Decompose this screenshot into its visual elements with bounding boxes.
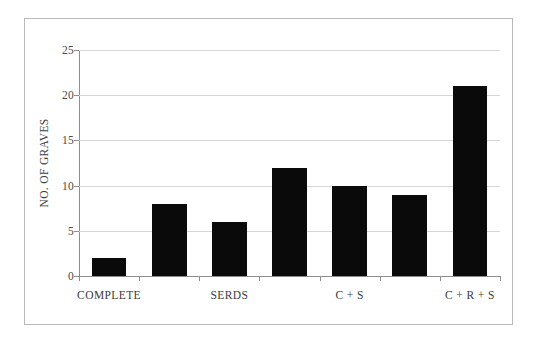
y-tick-mark-25 [74, 50, 79, 51]
y-tick-label-25: 25 [62, 44, 74, 56]
y-axis-title-text: NO. OF GRAVES [38, 118, 50, 207]
x-axis-label-3: C + S [335, 289, 363, 301]
bar-4 [272, 168, 307, 276]
x-axis-label-2: SERDS [210, 289, 248, 301]
bar-2 [152, 204, 187, 276]
x-axis-label-1: COMPLETE [77, 289, 141, 301]
x-axis-line [79, 276, 501, 277]
figure-container: NO. OF GRAVES 0 5 10 15 20 25 COMPLETESE… [0, 0, 537, 348]
gridline-25 [79, 50, 500, 51]
x-tick-mark-6 [440, 276, 441, 281]
y-axis-tick-labels: 0 5 10 15 20 25 [50, 50, 74, 276]
x-tick-mark-3 [259, 276, 260, 281]
y-tick-mark-5 [74, 231, 79, 232]
x-tick-mark-5 [380, 276, 381, 281]
y-tick-mark-20 [74, 95, 79, 96]
y-tick-label-10: 10 [62, 180, 74, 192]
x-tick-mark-0 [79, 276, 80, 281]
y-tick-label-20: 20 [62, 89, 74, 101]
x-axis-label-4: C + R + S [445, 289, 495, 301]
x-tick-mark-2 [199, 276, 200, 281]
y-tick-label-15: 15 [62, 134, 74, 146]
y-tick-mark-10 [74, 186, 79, 187]
x-tick-mark-1 [139, 276, 140, 281]
plot-area [79, 50, 500, 276]
bar-7 [453, 86, 488, 276]
y-tick-mark-15 [74, 140, 79, 141]
x-tick-mark-7 [500, 276, 501, 281]
gridline-20 [79, 95, 500, 96]
gridline-15 [79, 140, 500, 141]
bar-3 [212, 222, 247, 276]
bar-5 [332, 186, 367, 276]
bar-6 [392, 195, 427, 276]
x-tick-mark-4 [320, 276, 321, 281]
bar-1 [92, 258, 127, 276]
